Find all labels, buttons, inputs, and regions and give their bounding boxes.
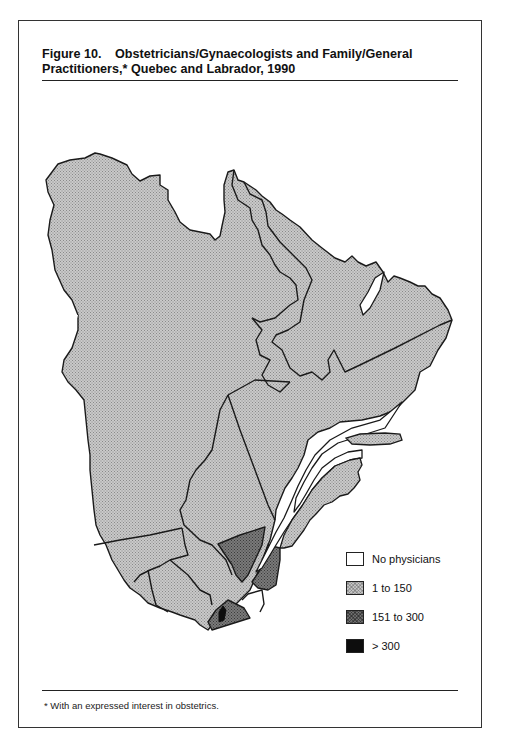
legend-item-1-to-150: 1 to 150 — [346, 581, 476, 599]
legend-swatch-none — [346, 552, 364, 566]
legend-label: 1 to 150 — [372, 581, 412, 595]
legend-label: No physicians — [372, 552, 440, 566]
hudson-bay-coast-notch — [58, 315, 78, 326]
legend-swatch-high — [346, 639, 364, 653]
legend-item-151-to-300: 151 to 300 — [346, 610, 476, 628]
legend-swatch-mid — [346, 610, 364, 624]
legend-item-no-physicians: No physicians — [346, 552, 476, 570]
legend-swatch-low — [346, 581, 364, 595]
legend-label: > 300 — [372, 639, 400, 653]
legend-item-over-300: > 300 — [346, 639, 476, 657]
choropleth-map — [0, 0, 506, 740]
legend-label: 151 to 300 — [372, 610, 424, 624]
footnote: * With an expressed interest in obstetri… — [44, 700, 219, 711]
footnote-divider — [42, 690, 458, 691]
